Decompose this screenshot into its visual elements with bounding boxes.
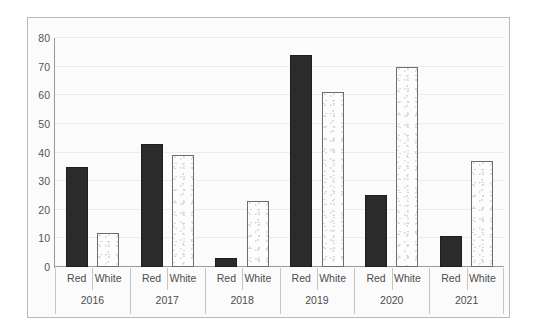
year-label-2017: 2017 [156,294,179,306]
category-label-2017-white: White [170,272,197,284]
group-separator-2018 [205,268,206,314]
bar-2019-red[interactable] [290,55,312,267]
bar-2016-red[interactable] [66,167,88,267]
category-label-2018-white: White [244,272,271,284]
subcategory-separator-2019 [317,268,318,290]
bar-2021-white[interactable] [471,161,493,267]
category-label-2016-white: White [95,272,122,284]
bar-2018-red[interactable] [215,258,237,267]
group-separator-end [503,268,504,314]
category-label-2019-white: White [319,272,346,284]
chart-frame: 01020304050607080 RedWhite2016RedWhite20… [27,17,510,318]
group-separator-2020 [354,268,355,314]
y-axis-tick-labels: 01020304050607080 [28,38,50,267]
year-label-2020: 2020 [380,294,403,306]
category-label-2020-red: Red [366,272,385,284]
year-label-2016: 2016 [81,294,104,306]
group-separator-2017 [130,268,131,314]
bar-2020-white[interactable] [396,67,418,267]
subcategory-separator-2017 [167,268,168,290]
y-tick-label-60: 60 [38,89,50,101]
bar-series-container [55,38,504,267]
y-tick-label-80: 80 [38,32,50,44]
bar-2020-red[interactable] [365,195,387,267]
year-label-2018: 2018 [230,294,253,306]
category-label-2021-red: Red [441,272,460,284]
bar-2017-red[interactable] [141,144,163,267]
category-label-2019-red: Red [292,272,311,284]
group-separator-2019 [280,268,281,314]
y-tick-label-70: 70 [38,61,50,73]
category-label-2021-white: White [469,272,496,284]
year-label-2019: 2019 [305,294,328,306]
subcategory-separator-2020 [392,268,393,290]
y-tick-label-30: 30 [38,175,50,187]
y-tick-label-20: 20 [38,204,50,216]
category-label-2020-white: White [394,272,421,284]
subcategory-separator-2018 [242,268,243,290]
subcategory-separator-2021 [467,268,468,290]
bar-2018-white[interactable] [247,201,269,267]
y-tick-label-0: 0 [44,261,50,273]
bar-2021-red[interactable] [440,236,462,267]
year-label-2021: 2021 [455,294,478,306]
category-label-2016-red: Red [67,272,86,284]
bar-2019-white[interactable] [322,92,344,267]
bar-2016-white[interactable] [97,233,119,267]
category-axis: RedWhite2016RedWhite2017RedWhite2018RedW… [55,268,504,315]
y-tick-label-40: 40 [38,147,50,159]
category-label-2017-red: Red [142,272,161,284]
y-tick-label-10: 10 [38,232,50,244]
y-tick-label-50: 50 [38,118,50,130]
category-label-2018-red: Red [217,272,236,284]
subcategory-separator-2016 [92,268,93,290]
bar-2017-white[interactable] [172,155,194,267]
group-separator-2016 [55,268,56,314]
group-separator-2021 [429,268,430,314]
